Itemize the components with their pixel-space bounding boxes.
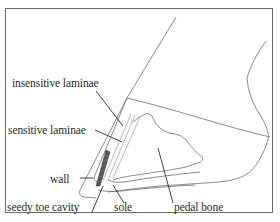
hoof-wall-inner-line (94, 98, 127, 182)
label-pedal-bone: pedal bone (174, 201, 223, 213)
label-insensitive-laminae: insensitive laminae (12, 77, 99, 89)
label-seedy-toe-cavity: seedy toe cavity (7, 201, 79, 213)
hoof-drawing (0, 0, 280, 222)
coronary-band-line (127, 98, 270, 137)
leader-sensitive-laminae (95, 130, 122, 142)
hoof-wall-outer-line (80, 17, 177, 198)
pedal-bone-outline (113, 113, 203, 180)
label-sensitive-laminae: sensitive laminae (8, 124, 86, 136)
leader-insensitive-laminae (96, 91, 123, 126)
label-sole: sole (114, 201, 132, 213)
label-wall: wall (50, 173, 69, 185)
heel-outline (108, 41, 268, 192)
leader-seedy-toe-cavity (92, 186, 103, 212)
hoof-cross-section-diagram: insensitive laminae sensitive laminae wa… (0, 0, 280, 222)
sole-lower-line (98, 185, 195, 192)
